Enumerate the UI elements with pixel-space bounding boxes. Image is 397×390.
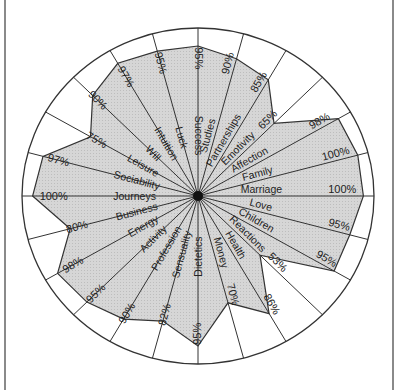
center-hub	[193, 191, 203, 201]
value-label: 100%	[40, 190, 68, 202]
category-label: Journeys	[113, 190, 156, 202]
category-label: Dietetics	[192, 236, 204, 276]
value-label: 100%	[328, 183, 356, 195]
value-label: 95%	[193, 47, 205, 69]
category-label: Marriage	[241, 183, 283, 195]
radial-chart: Success95%Studies90%Partnerships85%Emoti…	[0, 0, 397, 390]
value-label: 95%	[192, 323, 204, 345]
